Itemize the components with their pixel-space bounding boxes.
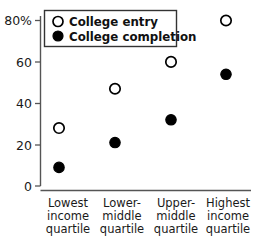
x-tick-label-group-3: Highest income quartile	[206, 196, 251, 236]
data-point-completion-1	[110, 137, 120, 147]
y-tick-label-40: 40	[16, 96, 32, 111]
legend-label-college-completion: College completion	[69, 30, 196, 44]
data-point-completion-0	[54, 162, 64, 172]
x-tick-label-3-line2: income	[207, 209, 249, 223]
chart-canvas: 80% 60 40 20 0 Lowest income quartile Lo…	[0, 0, 256, 242]
x-tick-label-1-line1: Lower-	[103, 196, 141, 210]
data-point-entry-0	[54, 123, 64, 133]
x-tick-label-1-line2: middle	[102, 209, 141, 223]
x-tick-label-group-1: Lower- middle quartile	[100, 196, 144, 236]
x-tick-label-3-line3: quartile	[206, 222, 250, 236]
x-tick-label-group-2: Upper- middle quartile	[154, 196, 198, 236]
x-tick-label-3-line1: Highest	[206, 196, 250, 210]
data-point-entry-1	[110, 84, 120, 94]
x-tick-label-0-line1: Lowest	[48, 196, 89, 210]
x-tick-label-1-line3: quartile	[100, 222, 144, 236]
legend-label-college-entry: College entry	[69, 15, 158, 29]
scatter-chart: 80% 60 40 20 0 Lowest income quartile Lo…	[0, 0, 256, 242]
data-point-completion-2	[166, 115, 176, 125]
data-point-entry-2	[166, 57, 176, 67]
x-tick-label-2-line2: middle	[156, 209, 195, 223]
x-tick-label-2-line1: Upper-	[157, 196, 195, 210]
y-tick-label-80: 80%	[4, 13, 32, 28]
legend-marker-open-circle-icon	[53, 17, 63, 27]
y-tick-label-60: 60	[16, 55, 32, 70]
chart-legend: College entry College completion	[45, 11, 197, 47]
x-tick-label-0-line2: income	[47, 209, 89, 223]
x-tick-label-0-line3: quartile	[46, 222, 90, 236]
y-tick-label-20: 20	[16, 138, 32, 153]
data-point-completion-3	[221, 69, 231, 79]
series-college-completion	[54, 69, 231, 172]
x-tick-label-group-0: Lowest income quartile	[46, 196, 90, 236]
data-point-entry-3	[221, 15, 231, 25]
y-tick-label-0: 0	[24, 179, 32, 194]
legend-marker-filled-circle-icon	[53, 31, 63, 41]
x-tick-label-2-line3: quartile	[154, 222, 198, 236]
y-axis	[35, 16, 41, 186]
